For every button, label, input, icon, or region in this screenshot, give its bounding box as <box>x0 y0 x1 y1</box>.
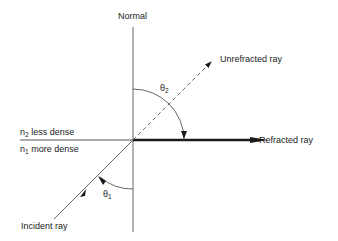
theta2-label: θ2 <box>160 84 169 93</box>
refracted-ray-label: Refracted ray <box>259 136 313 145</box>
theta1-label: θ1 <box>103 190 112 199</box>
incident-ray-label: Incident ray <box>21 222 68 231</box>
theta2-arrowhead <box>181 131 187 139</box>
unrefracted-ray <box>133 62 211 140</box>
medium-n2-label: n2 less dense <box>20 128 74 137</box>
medium-n1-text: more dense <box>29 144 79 154</box>
medium-n2-subscript: 2 <box>25 131 29 138</box>
refraction-diagram <box>0 0 338 241</box>
theta1-arc <box>100 177 133 189</box>
theta1-arrowhead <box>98 176 106 185</box>
normal-label: Normal <box>118 12 147 21</box>
medium-n1-subscript: 1 <box>25 148 29 155</box>
unrefracted-ray-label: Unrefracted ray <box>220 55 282 64</box>
theta1-subscript: 1 <box>108 193 112 200</box>
medium-n1-label: n1 more dense <box>20 145 79 154</box>
theta2-subscript: 2 <box>165 87 169 94</box>
medium-n2-text: less dense <box>29 127 75 137</box>
